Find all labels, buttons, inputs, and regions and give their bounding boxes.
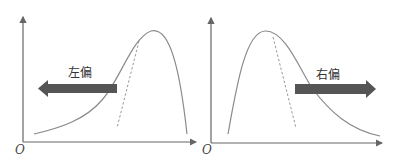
left-origin-label: O bbox=[15, 143, 25, 157]
left-arrow bbox=[38, 80, 117, 97]
right-origin-label: O bbox=[202, 143, 212, 157]
right-dashed-reference bbox=[273, 37, 296, 128]
right-skew-label: 右偏 bbox=[316, 67, 340, 82]
left-skew-label: 左偏 bbox=[68, 65, 92, 80]
left-skew-curve bbox=[34, 31, 187, 134]
right-arrow bbox=[295, 80, 376, 98]
skewness-diagram: O 左偏 O 右偏 bbox=[0, 0, 398, 164]
left-dashed-reference bbox=[117, 41, 139, 128]
right-skew-curve bbox=[228, 31, 380, 136]
left-panel: O 左偏 bbox=[15, 17, 196, 157]
right-panel: O 右偏 bbox=[202, 18, 382, 157]
